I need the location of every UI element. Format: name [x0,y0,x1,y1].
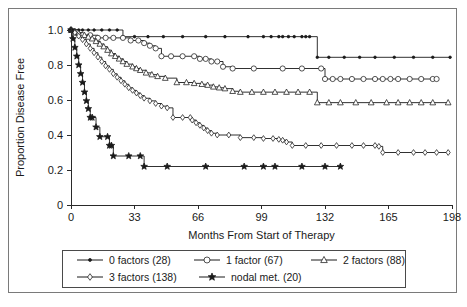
legend-item[interactable]: nodal met. (20) [197,271,319,283]
dot-marker [278,35,281,38]
circle-marker [180,54,185,59]
diamond-marker [104,63,108,69]
diamond-marker [238,135,242,141]
dot-marker [431,56,434,59]
circle-icon [192,254,222,266]
legend-row: 0 factors (28)1 factor (67)2 factors (88… [63,251,405,268]
diamond-marker [111,71,115,77]
dot-marker [89,258,92,261]
circle-marker [330,76,335,81]
dot-marker [204,35,207,38]
star-marker [164,163,171,169]
dot-icon [75,254,105,266]
legend-item[interactable]: 3 factors (138) [75,271,197,283]
markers-4 [69,27,450,155]
axes-layer [67,27,452,209]
dot-marker [301,35,304,38]
diamond-marker [142,95,146,101]
x-tick-label: 66 [192,211,204,223]
diamond-marker [277,136,281,142]
y-axis-title: Proportion Disease Free [14,58,26,177]
markers-5 [68,27,344,170]
diamond-marker [271,136,275,142]
circle-marker [204,257,210,263]
star-marker [241,163,248,169]
circle-marker [159,54,164,59]
circle-marker [372,76,377,81]
dot-marker [262,35,265,38]
diamond-marker [206,128,210,134]
dot-marker [100,29,103,32]
circle-marker [111,35,116,40]
star-marker [337,163,344,169]
circle-marker [120,35,125,40]
diamond-marker [107,66,111,72]
star-marker [110,153,117,159]
circle-marker [103,35,108,40]
diamond-marker [130,87,134,93]
star-marker [322,163,329,169]
legend-label: nodal met. (20) [231,271,302,283]
x-tick-label: 198 [443,211,461,223]
circle-marker [322,76,327,81]
diamond-marker [88,45,92,51]
dot-marker [304,35,307,38]
x-tick-label: 33 [128,211,140,223]
diamond-marker [252,135,256,141]
x-tick-label: 165 [379,211,397,223]
y-tick-label: 0 [57,199,63,211]
dot-marker [116,29,119,32]
diamond-marker [154,101,158,107]
dot-marker [449,56,452,59]
diamond-marker [227,132,231,138]
diamond-marker [198,122,202,128]
diamond-marker [202,125,206,131]
dot-marker [287,35,290,38]
curve-1 [71,30,450,57]
circle-marker [203,56,208,61]
circle-marker [215,59,220,64]
diamond-marker [361,143,365,149]
diamond-marker [290,143,294,149]
legend-item[interactable]: 0 factors (28) [75,254,192,266]
dot-marker [147,35,150,38]
circle-marker [349,76,354,81]
diamond-marker [100,59,104,65]
curves-layer [71,30,450,167]
circle-marker [361,76,366,81]
star-marker [141,163,148,169]
dot-marker [87,29,90,32]
star-marker [260,163,267,169]
circle-marker [380,76,385,81]
dot-marker [133,35,136,38]
circle-marker [280,66,285,71]
circle-marker [419,76,424,81]
axis-lines [71,27,452,205]
legend-item[interactable]: 2 factors (88) [309,254,405,266]
circle-marker [197,56,202,61]
star-marker [93,124,100,130]
circle-marker [136,38,141,43]
x-tick-label: 99 [255,211,267,223]
circle-marker [142,41,147,46]
dot-marker [293,35,296,38]
diamond-marker [209,130,213,136]
dot-marker [108,29,111,32]
x-tick-label: 0 [68,211,74,223]
diamond-marker [396,150,400,156]
diamond-marker [334,143,338,149]
markers-layer [68,27,452,170]
diamond-marker [134,90,138,96]
curve-4 [71,30,448,153]
diamond-marker [435,150,439,156]
dot-marker [393,56,396,59]
circle-marker [319,66,324,71]
circle-marker [168,54,173,59]
dot-marker [328,56,331,59]
dot-marker [316,56,319,59]
circle-marker [147,43,152,48]
diamond-marker [281,137,285,143]
circle-marker [192,54,197,59]
legend-item[interactable]: 1 factor (67) [192,254,309,266]
star-icon [197,271,227,283]
